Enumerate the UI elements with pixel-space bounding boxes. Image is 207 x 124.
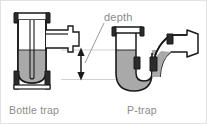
p-trap-assembly: P-trap bbox=[112, 27, 198, 116]
depth-label: depth bbox=[104, 11, 133, 23]
diagram-canvas: Bottle trap depth bbox=[1, 1, 207, 124]
bottle-trap-outlet-pipe bbox=[46, 26, 79, 52]
bottle-trap-assembly: Bottle trap bbox=[9, 13, 79, 116]
p-trap-caption: P-trap bbox=[127, 104, 157, 116]
trap-depth-diagram: Bottle trap depth bbox=[0, 0, 207, 124]
depth-double-arrow bbox=[77, 48, 84, 81]
depth-guide-lines bbox=[61, 50, 119, 80]
bottle-trap-caption: Bottle trap bbox=[9, 104, 59, 116]
depth-leader-line bbox=[85, 23, 104, 63]
